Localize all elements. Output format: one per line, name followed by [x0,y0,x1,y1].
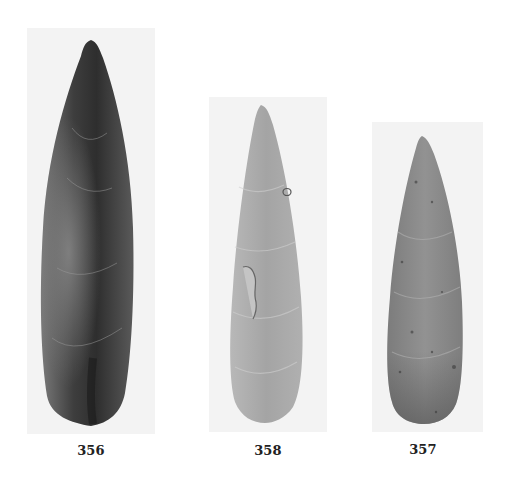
specimen-358-label: 358 [238,443,298,458]
specimen-357-point-image [372,122,483,432]
specimen-358-point-image [209,97,327,432]
specimen-356-point-image [27,28,155,434]
specimen-357-label: 357 [393,442,453,457]
specimen-356-photo [27,28,155,434]
specimen-357-photo [372,122,483,432]
specimen-358-photo [209,97,327,432]
specimen-356-label: 356 [61,443,121,458]
artifact-plate-page: 356 358 [0,0,505,484]
